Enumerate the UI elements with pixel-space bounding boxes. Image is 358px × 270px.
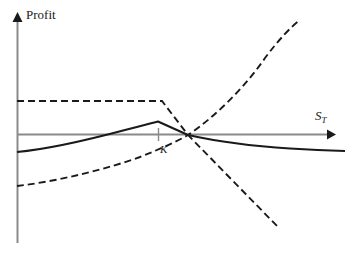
- chart-canvas: [0, 0, 358, 270]
- y-axis-label: Profit: [26, 7, 56, 23]
- profit-diagram: Profit ST K: [0, 0, 358, 270]
- y-axis-arrow: [13, 12, 23, 22]
- series-long-underlying-profit: [17, 20, 300, 186]
- x-axis-label: ST: [315, 108, 327, 125]
- axes-group: [13, 12, 337, 243]
- strike-price-label: K: [160, 143, 167, 155]
- x-axis-label-subscript: T: [322, 115, 327, 125]
- x-axis-arrow: [327, 130, 336, 140]
- series-short-call-payoff: [17, 101, 278, 227]
